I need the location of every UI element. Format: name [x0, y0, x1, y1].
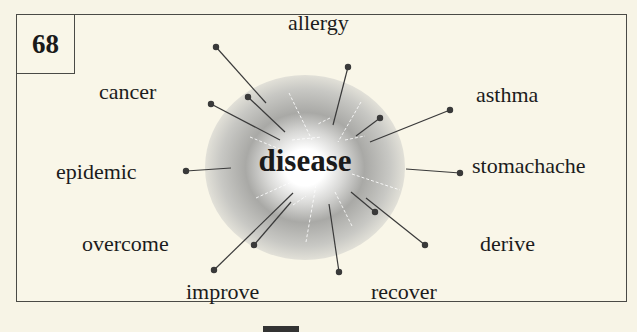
word-allergy: allergy — [288, 12, 349, 34]
word-derive: derive — [480, 233, 535, 255]
word-recover: recover — [371, 281, 437, 303]
word-stomachache: stomachache — [472, 155, 586, 177]
word-cancer: cancer — [99, 81, 156, 103]
word-overcome: overcome — [82, 233, 169, 255]
center-word: disease — [259, 143, 352, 179]
word-improve: improve — [186, 281, 259, 303]
word-asthma: asthma — [476, 84, 538, 106]
bottom-tab-marker — [263, 326, 299, 332]
word-epidemic: epidemic — [56, 161, 137, 183]
card-number: 68 — [16, 14, 75, 74]
